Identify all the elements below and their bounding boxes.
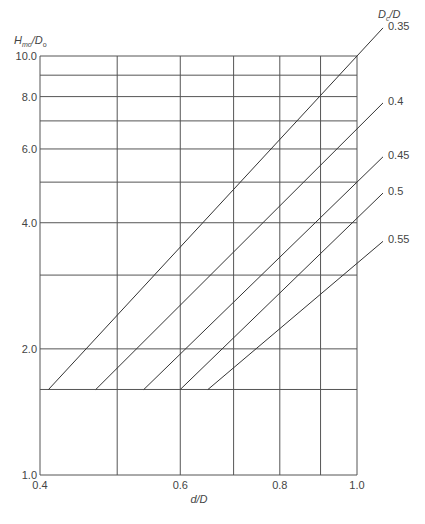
grid xyxy=(40,56,357,475)
y-tick-label: 4.0 xyxy=(22,217,37,229)
x-tick-label: 0.6 xyxy=(173,479,188,491)
y-tick-label: 6.0 xyxy=(22,143,37,155)
y-tick-label: 10.0 xyxy=(16,50,37,62)
series-label: 0.45 xyxy=(388,149,409,161)
series-lines xyxy=(49,28,383,390)
y-tick-label: 1.0 xyxy=(22,469,37,481)
series-line-0.35 xyxy=(49,28,383,390)
series-line-0.45 xyxy=(144,157,383,390)
series-label: 0.5 xyxy=(388,185,403,197)
x-axis-title: d/D xyxy=(190,493,207,505)
x-tick-label: 1.0 xyxy=(349,479,364,491)
tick-labels: 0.40.60.81.01.02.04.06.08.010.0 xyxy=(16,50,365,491)
chart: 0.40.60.81.01.02.04.06.08.010.0 0.350.40… xyxy=(0,0,425,524)
y-tick-label: 8.0 xyxy=(22,91,37,103)
series-label: 0.35 xyxy=(388,20,409,32)
legend-title: Dc/D xyxy=(378,8,401,22)
series-labels: 0.350.40.450.50.55 xyxy=(388,20,409,245)
y-axis-title: Hmo/Do xyxy=(14,34,47,48)
x-tick-label: 0.8 xyxy=(272,479,287,491)
y-tick-label: 2.0 xyxy=(22,343,37,355)
series-label: 0.55 xyxy=(388,233,409,245)
series-line-0.4 xyxy=(96,103,383,390)
series-label: 0.4 xyxy=(388,95,403,107)
